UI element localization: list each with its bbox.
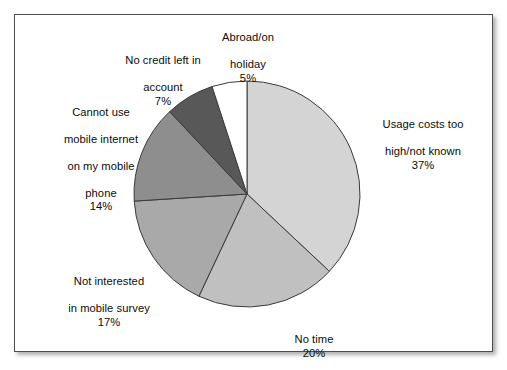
pie-label-usage-costs-line1: Usage costs too (383, 118, 464, 130)
pie-label-abroad-line1: Abroad/on (222, 31, 274, 43)
pie-label-not-interested-line2: in mobile survey (68, 302, 150, 314)
pie-label-no-time: No time 20% (258, 320, 370, 370)
pie-label-cannot-use-line4: phone (85, 187, 116, 199)
pie-label-not-interested-percent: 17% (36, 316, 182, 329)
pie-label-cannot-use-percent: 14% (40, 200, 162, 213)
pie-label-abroad-percent: 5% (196, 72, 300, 85)
pie-label-no-credit-line2: account (143, 81, 183, 93)
pie-label-not-interested: Not interested in mobile survey 17% (36, 262, 182, 342)
pie-label-cannot-use-line2: mobile internet (64, 133, 138, 145)
pie-label-cannot-use-line3: on my mobile (67, 160, 134, 172)
pie-label-usage-costs-line2: high/not known (385, 145, 461, 157)
figure-root: Usage costs too high/not known 37% No ti… (0, 0, 507, 370)
pie-label-usage-costs-percent: 37% (352, 159, 494, 172)
pie-label-no-credit-line1: No credit left in (125, 54, 200, 66)
pie-label-no-time-line1: No time (295, 333, 334, 345)
pie-label-not-interested-line1: Not interested (74, 275, 144, 287)
pie-label-no-time-percent: 20% (258, 347, 370, 360)
pie-label-abroad-line2: holiday (230, 58, 266, 70)
pie-label-abroad-on-holiday: Abroad/on holiday 5% (196, 18, 300, 98)
pie-label-usage-costs: Usage costs too high/not known 37% (352, 105, 494, 185)
